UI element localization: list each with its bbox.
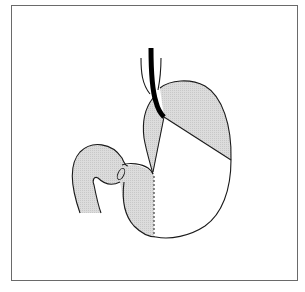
stomach-diagram (0, 0, 305, 292)
antrum-region (120, 165, 154, 237)
